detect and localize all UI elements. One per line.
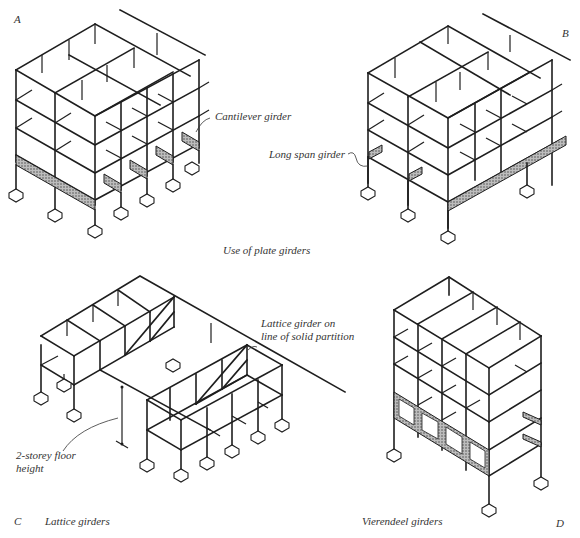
structural-frames-drawing xyxy=(0,0,580,538)
panel-d-label: D xyxy=(556,517,564,530)
vierendeel-girders-caption: Vierendeel girders xyxy=(362,515,443,528)
panel-a-frame xyxy=(9,10,210,238)
main-caption: Use of plate girders xyxy=(223,244,310,257)
storey-height-annotation-line1: 2-storey floor xyxy=(16,449,76,462)
panel-b-label: B xyxy=(562,27,569,40)
panel-a-label: A xyxy=(14,13,21,26)
lattice-girder-annotation-line2: line of solid partition xyxy=(261,330,354,343)
panel-c-frame xyxy=(34,276,345,482)
lattice-girders-caption: Lattice girders xyxy=(45,515,110,528)
lattice-girder-annotation-line1: Lattice girder on xyxy=(261,317,335,330)
panel-d-frame xyxy=(387,277,548,517)
panel-c-label: C xyxy=(14,515,21,528)
long-span-girder-annotation: Long span girder xyxy=(269,148,345,161)
storey-height-annotation-line2: height xyxy=(16,462,44,475)
cantilever-girder-annotation: Cantilever girder xyxy=(215,110,291,123)
panel-b-frame xyxy=(348,14,570,244)
